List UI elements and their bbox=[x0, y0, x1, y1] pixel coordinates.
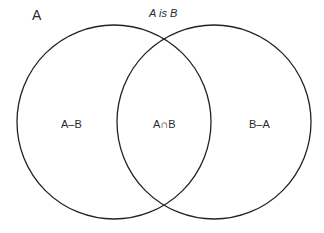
circle-a bbox=[17, 25, 211, 219]
diagram-title: A is B bbox=[149, 8, 177, 19]
region-b-minus-a-label: B–A bbox=[249, 119, 270, 130]
venn-circles bbox=[0, 0, 324, 233]
venn-diagram: A A is B A–B A∩B B–A bbox=[0, 0, 324, 233]
region-a-minus-b-label: A–B bbox=[61, 119, 82, 130]
region-intersection-label: A∩B bbox=[153, 119, 176, 130]
circle-b bbox=[117, 25, 311, 219]
set-a-label: A bbox=[32, 8, 41, 22]
